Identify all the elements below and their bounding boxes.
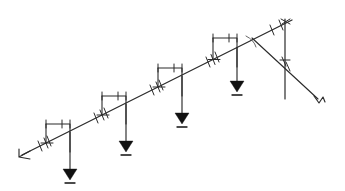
beam-tick-9 [270, 25, 274, 35]
load-arrowhead-3 [175, 113, 189, 124]
bracket-frame-3 [158, 68, 182, 96]
beam-tick-7 [206, 57, 210, 67]
left-hook-path [19, 149, 30, 159]
bracket-frame-1 [46, 124, 70, 152]
hanger-assembly-2 [97, 92, 133, 155]
right-assembly-group [246, 19, 325, 103]
structural-diagram-canvas [0, 0, 345, 191]
schematic-drawing [0, 0, 345, 191]
left-end-hook [19, 149, 30, 159]
load-arrowhead-2 [119, 141, 133, 152]
load-arrowhead-1 [63, 169, 77, 180]
hanger-assembly-4 [208, 34, 244, 95]
bracket-frame-4 [213, 38, 237, 67]
angle-arc-icon [246, 36, 256, 47]
hanger-assembly-1 [41, 120, 77, 183]
beam-tick-4 [104, 108, 108, 118]
hanger-assembly-3 [153, 64, 189, 127]
load-arrowhead-4 [230, 81, 244, 92]
bracket-frame-2 [102, 96, 126, 124]
